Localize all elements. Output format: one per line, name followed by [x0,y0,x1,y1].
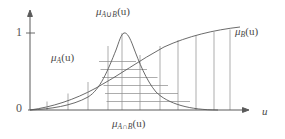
label-mu-a: μA(u) [51,52,74,64]
y-axis-tick-label-one: 1 [16,26,22,38]
y-axis-tick-label-zero: 0 [16,102,22,114]
fuzzy-membership-figure: 1 0 u μA(u) μB(u) μA∪B(u) μA∩B(u) [0,0,285,139]
y-axis [28,10,33,110]
x-axis [28,108,249,113]
label-mu-b: μB(u) [235,26,258,38]
argument-u: (u) [117,5,130,17]
argument-u: (u) [133,117,146,129]
argument-u: (u) [245,25,258,37]
label-mu-a-union-b: μA∪B(u) [96,6,130,18]
label-mu-a-intersect-b: μA∩B(u) [112,118,145,130]
x-axis-label: u [262,106,268,117]
intersection-horizontal-hatching [99,62,190,102]
argument-u: (u) [61,51,74,63]
curve-mu-b [30,27,240,110]
